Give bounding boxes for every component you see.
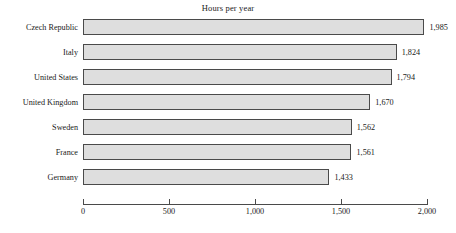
bar-value-label: 1,794 bbox=[392, 73, 415, 82]
x-axis-tick bbox=[169, 199, 170, 205]
bar bbox=[83, 144, 351, 160]
category-label: Sweden bbox=[52, 123, 78, 132]
bar-track bbox=[83, 119, 352, 135]
x-axis-tick-label: 2,000 bbox=[418, 207, 436, 216]
bar bbox=[83, 44, 397, 60]
bar-track bbox=[83, 69, 392, 85]
category-label: Italy bbox=[63, 48, 78, 57]
bar-track bbox=[83, 94, 370, 110]
bar-track bbox=[83, 144, 351, 160]
bar-track bbox=[83, 19, 424, 35]
x-axis-tick-label: 0 bbox=[81, 207, 85, 216]
x-axis-tick bbox=[427, 199, 428, 205]
category-label: Czech Republic bbox=[26, 23, 78, 32]
bar bbox=[83, 69, 392, 85]
x-axis-tick-label: 1,500 bbox=[332, 207, 350, 216]
x-axis-tick bbox=[255, 199, 256, 205]
bar-row: United States1,794 bbox=[0, 69, 456, 85]
bar-value-label: 1,824 bbox=[397, 48, 420, 57]
bar bbox=[83, 119, 352, 135]
bar-chart: Hours per year Czech Republic1,985Italy1… bbox=[0, 0, 456, 233]
category-label: United States bbox=[34, 73, 78, 82]
x-axis-tick-label: 1,000 bbox=[246, 207, 264, 216]
bar-value-label: 1,985 bbox=[424, 23, 447, 32]
bar-row: France1,561 bbox=[0, 144, 456, 160]
x-axis-tick-label: 500 bbox=[163, 207, 175, 216]
plot-area: Czech Republic1,985Italy1,824United Stat… bbox=[0, 0, 456, 233]
bar-value-label: 1,670 bbox=[370, 98, 393, 107]
category-label: France bbox=[56, 148, 78, 157]
x-axis-tick bbox=[341, 199, 342, 205]
bar-row: Czech Republic1,985 bbox=[0, 19, 456, 35]
bar-value-label: 1,562 bbox=[352, 123, 375, 132]
bar-track bbox=[83, 169, 329, 185]
bar-row: Germany1,433 bbox=[0, 169, 456, 185]
category-label: Germany bbox=[48, 173, 78, 182]
bar-value-label: 1,433 bbox=[329, 173, 352, 182]
bar-row: United Kingdom1,670 bbox=[0, 94, 456, 110]
bar bbox=[83, 19, 424, 35]
bar bbox=[83, 94, 370, 110]
bar-value-label: 1,561 bbox=[351, 148, 374, 157]
x-axis-tick bbox=[83, 199, 84, 205]
bar-row: Sweden1,562 bbox=[0, 119, 456, 135]
bar-row: Italy1,824 bbox=[0, 44, 456, 60]
category-label: United Kingdom bbox=[23, 98, 78, 107]
bar-track bbox=[83, 44, 397, 60]
bar bbox=[83, 169, 329, 185]
